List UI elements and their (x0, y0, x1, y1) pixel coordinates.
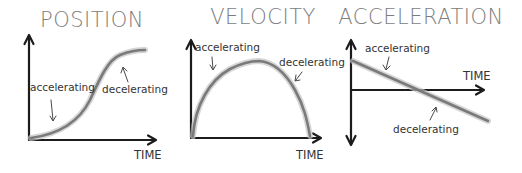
velocity-accelerating-label: accelerating (195, 41, 260, 53)
velocity-curve (193, 61, 310, 136)
position-panel: POSITION accelerating decelerating TIME (25, 8, 168, 162)
arrow-down-left-icon (295, 72, 302, 81)
acceleration-panel: ACCELERATION accelerating TIME decelerat… (338, 5, 503, 145)
acceleration-title: ACCELERATION (338, 5, 503, 29)
position-time-label: TIME (133, 148, 162, 162)
arrow-down-icon (383, 57, 390, 70)
velocity-title: VELOCITY (210, 5, 316, 29)
acceleration-decelerating-label: decelerating (393, 123, 459, 135)
position-accelerating-label: accelerating (30, 81, 95, 93)
acceleration-y-axis (347, 40, 356, 145)
kinematics-diagram: POSITION accelerating decelerating TIME … (0, 0, 522, 173)
arrow-up-icon (121, 67, 128, 82)
position-decelerating-label: decelerating (102, 83, 168, 95)
velocity-panel: VELOCITY accelerating decelerating TIME (187, 5, 345, 162)
acceleration-time-label: TIME (462, 69, 491, 83)
position-title: POSITION (40, 8, 144, 32)
arrow-down-icon (210, 57, 216, 70)
velocity-x-axis (191, 134, 321, 143)
arrow-up-icon (430, 107, 437, 120)
acceleration-accelerating-label: accelerating (365, 42, 430, 54)
arrow-down-icon (50, 100, 56, 121)
velocity-time-label: TIME (295, 148, 324, 162)
velocity-decelerating-label: decelerating (279, 56, 345, 68)
